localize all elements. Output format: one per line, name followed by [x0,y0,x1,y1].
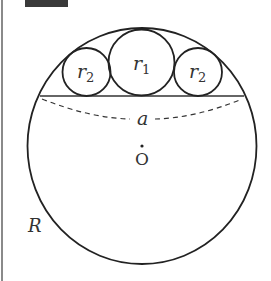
center-point [140,144,143,147]
label-radius-r: R [27,215,42,236]
label-chord-a: a [137,107,148,129]
label-r2-right: r2 [189,60,206,85]
chord-length-dashed-arc-right [155,99,242,119]
label-center-o: O [135,149,149,169]
label-r2-left: r2 [77,60,94,85]
chord-length-dashed-arc [42,99,130,119]
label-r1-middle: r1 [133,52,150,77]
geometry-figure: r2 r1 r2 a O R [0,0,271,281]
